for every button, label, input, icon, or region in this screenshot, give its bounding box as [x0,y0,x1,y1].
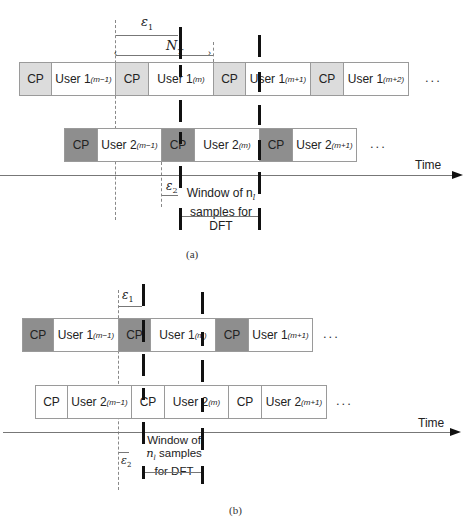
user-symbol-block: User 1(m−1) [53,318,119,352]
dft-window-start-line [142,354,145,376]
nt-arrow-right-head: › [208,48,211,58]
dft-window-end-line [201,292,204,314]
ellipsis: ... [323,326,340,341]
dft-window-end-line [258,140,261,160]
ellipsis: ... [425,70,442,85]
cp-block: CP [115,62,149,96]
dft-window-end-line [201,398,204,412]
epsilon2-label: ε2 [121,454,131,469]
user-symbol-block: User 2(m) [194,128,260,162]
dft-window-end-line [201,332,204,346]
dft-window-label: Window of nl samples for DFT [182,186,260,233]
epsilon2-arrow [119,452,129,453]
user-symbol-block: User 2(m−1) [97,128,162,162]
dft-window-start-line [142,320,145,342]
cp-block: CP [131,385,165,419]
dft-window-start-line [142,388,145,400]
epsilon1-label: ε1 [122,288,134,304]
cp-block: CP [310,62,344,96]
dft-window-end-line [201,360,204,382]
cp-block: CP [118,318,151,352]
user-symbol-block: User 1(m+2) [343,62,409,96]
dft-window-span-arrow [145,472,201,473]
cp-block: CP [259,128,293,162]
user-symbol-block: User 1(m+1) [248,318,313,352]
user-symbol-block: User 1(m−1) [51,62,116,96]
time-axis-arrow-icon [452,171,463,179]
cp-block: CP [64,128,98,162]
dft-window-span-arrow [182,216,258,217]
user-symbol-block: User 2(m+1) [261,385,327,419]
user-symbol-block: User 2(m−1) [67,385,132,419]
dft-window-start-line [179,166,182,188]
cp-block: CP [22,318,54,352]
dft-window-start-line [179,132,182,144]
epsilon2-arrow [162,195,178,196]
nt-arrow [116,55,213,56]
dft-window-end-line [258,35,261,57]
epsilon2-label: ε2 [166,179,178,195]
panel-b-caption: (b) [229,504,242,516]
time-axis-label: Time [418,416,444,430]
time-axis-arrow-icon [450,428,461,436]
cp-block: CP [19,62,52,96]
cp-block: CP [35,385,68,419]
user-symbol-block: User 2(m+1) [292,128,357,162]
time-axis [3,432,450,433]
cp-block: CP [215,318,249,352]
dft-window-start-line [179,100,182,122]
dft-window-start-line [179,27,182,59]
epsilon1-arrow [119,306,142,307]
cp-block: CP [161,128,195,162]
time-axis [0,175,452,176]
dft-window-start-line [142,284,145,306]
ellipsis: ... [336,393,353,408]
dft-window-end-line [258,72,261,92]
dft-window-end-line [258,105,261,125]
user-symbol-block: User 1(m) [150,318,216,352]
user-symbol-block: User 2(m) [164,385,229,419]
user-symbol-block: User 1(m+1) [245,62,311,96]
epsilon1-arrow [116,35,178,36]
symbol-end-marker [213,42,214,62]
cp-block: CP [213,62,246,96]
panel-a-caption: (a) [186,248,198,260]
epsilon1-label: ε1 [141,14,153,32]
dft-window-start-line [179,65,182,77]
nt-arrow-left-head: ‹ [114,48,117,58]
user2-symbol-start-marker [161,162,162,207]
time-axis-label: Time [415,158,441,172]
ellipsis: ... [370,136,387,151]
cp-block: CP [228,385,262,419]
